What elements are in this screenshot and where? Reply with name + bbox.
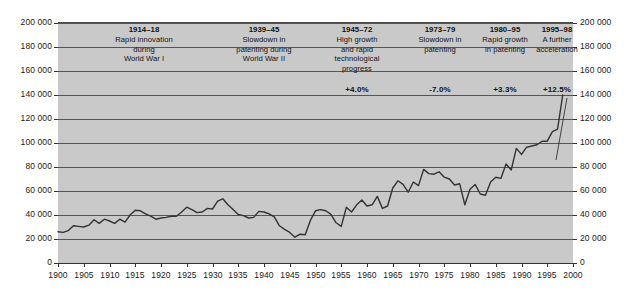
annotation-period-label: 1973–79 (400, 25, 480, 35)
gridline (58, 23, 573, 24)
gridline (58, 143, 573, 144)
y-axis-tick-label: 160 000 (21, 66, 52, 75)
y-tick-mark (573, 119, 577, 120)
y-axis-tick-label: 180 000 (21, 42, 52, 51)
x-axis-tick-label: 1945 (280, 270, 299, 280)
annotation-description-line: World War II (208, 54, 320, 64)
y-axis-tick-label: 20 000 (25, 234, 52, 243)
x-axis-tick-label: 1985 (486, 270, 505, 280)
x-tick-mark (573, 263, 574, 267)
annotation-description-line: patenting during (208, 45, 320, 55)
x-axis-tick-label: 2000 (563, 270, 582, 280)
gridline (58, 191, 573, 192)
y-axis-tick-label: 160 000 (580, 66, 611, 75)
y-axis-tick-label: 60 000 (25, 186, 52, 195)
y-tick-mark (573, 143, 577, 144)
annotation-description-line: and rapid (318, 45, 396, 55)
y-tick-mark (54, 95, 58, 96)
y-tick-mark (573, 191, 577, 192)
x-axis-tick-label: 1950 (306, 270, 325, 280)
y-axis-tick-label: 80 000 (580, 162, 607, 171)
gridline (58, 215, 573, 216)
y-tick-mark (573, 23, 577, 24)
y-tick-mark (54, 143, 58, 144)
annotation-period-label: 1945–72 (318, 25, 396, 35)
y-tick-mark (54, 47, 58, 48)
annotation-description-line: Slowdown in (208, 35, 320, 45)
annotation-description-line: Slowdown in (400, 35, 480, 45)
gridline (58, 71, 573, 72)
annotation-growth-rate: +4.0% (318, 85, 396, 94)
annotation-description-line: Rapid innovation (88, 35, 200, 45)
x-axis-tick-label: 1980 (460, 270, 479, 280)
annotation-description-line: acceleration (524, 45, 590, 55)
y-tick-mark (573, 95, 577, 96)
x-axis-tick-label: 1960 (357, 270, 376, 280)
x-axis-tick-label: 1990 (512, 270, 531, 280)
x-axis-tick-label: 1900 (48, 270, 67, 280)
y-axis-tick-label: 100 000 (580, 138, 611, 147)
annotation-period-label: 1914–18 (88, 25, 200, 35)
x-axis-tick-label: 1995 (537, 270, 556, 280)
y-axis-tick-label: 120 000 (580, 114, 611, 123)
y-tick-mark (54, 239, 58, 240)
annotation-description-line: technological (318, 54, 396, 64)
y-axis-tick-label: 40 000 (25, 210, 52, 219)
x-axis-line (58, 263, 573, 264)
x-axis-tick-label: 1915 (125, 270, 144, 280)
x-axis-tick-label: 1935 (228, 270, 247, 280)
gridline (58, 167, 573, 168)
annotation-description-line: A further (524, 35, 590, 45)
y-axis-tick-label: 200 000 (21, 18, 52, 27)
patent-trend-chart: 0020 00020 00040 00040 00060 00060 00080… (0, 0, 636, 294)
y-tick-mark (54, 23, 58, 24)
annotation-growth-rate: +12.5% (524, 85, 590, 94)
x-axis-tick-label: 1910 (100, 270, 119, 280)
annotation-period-1: 1914–18Rapid innovationduringWorld War I (88, 25, 200, 64)
x-axis-tick-label: 1940 (254, 270, 273, 280)
y-tick-mark (573, 215, 577, 216)
y-axis-tick-label: 20 000 (580, 234, 607, 243)
annotation-description-line: progress (318, 64, 396, 74)
x-axis-tick-label: 1955 (331, 270, 350, 280)
annotation-description-line: World War I (88, 54, 200, 64)
y-tick-mark (54, 119, 58, 120)
annotation-description-line: High growth (318, 35, 396, 45)
annotation-period-6: 1995–98A furtheracceleration (524, 25, 590, 54)
x-axis-tick-label: 1930 (203, 270, 222, 280)
annotation-period-label: 1939–45 (208, 25, 320, 35)
x-axis-tick-label: 1970 (409, 270, 428, 280)
y-axis-tick-label: 0 (47, 258, 52, 267)
x-axis-tick-label: 1965 (383, 270, 402, 280)
y-axis-tick-label: 80 000 (25, 162, 52, 171)
x-axis-tick-label: 1975 (434, 270, 453, 280)
annotation-description-line: during (88, 45, 200, 55)
annotation-period-4: 1973–79Slowdown inpatenting (400, 25, 480, 54)
x-axis-tick-label: 1920 (151, 270, 170, 280)
y-axis-tick-label: 140 000 (21, 90, 52, 99)
y-tick-mark (54, 191, 58, 192)
gridline (58, 95, 573, 96)
y-tick-mark (573, 167, 577, 168)
gridline (58, 119, 573, 120)
y-axis-tick-label: 60 000 (580, 186, 607, 195)
annotation-description-line: patenting (400, 45, 480, 55)
y-axis-tick-label: 120 000 (21, 114, 52, 123)
annotation-period-3: 1945–72High growthand rapidtechnological… (318, 25, 396, 73)
y-tick-mark (573, 71, 577, 72)
y-tick-mark (54, 215, 58, 216)
gridline (58, 239, 573, 240)
annotation-period-2: 1939–45Slowdown inpatenting duringWorld … (208, 25, 320, 64)
y-tick-mark (54, 167, 58, 168)
y-axis-tick-label: 40 000 (580, 210, 607, 219)
y-tick-mark (573, 239, 577, 240)
x-axis-tick-label: 1905 (74, 270, 93, 280)
annotation-growth-rate: -7.0% (400, 85, 480, 94)
annotation-period-label: 1995–98 (524, 25, 590, 35)
x-axis-tick-label: 1925 (177, 270, 196, 280)
y-tick-mark (54, 71, 58, 72)
y-axis-tick-label: 0 (580, 258, 585, 267)
y-axis-tick-label: 100 000 (21, 138, 52, 147)
